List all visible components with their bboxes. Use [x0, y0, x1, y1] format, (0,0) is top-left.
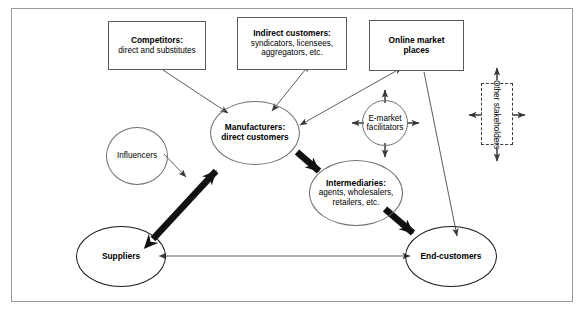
node-suppliers[interactable]: Suppliers [76, 226, 166, 287]
intermediaries-line1: agents, wholesalers, [319, 188, 394, 197]
intermediaries-line2: retailers, etc. [333, 198, 380, 207]
intermediaries-title: Intermediaries: [326, 179, 386, 189]
e-market-facilitators-line1: E-market [368, 114, 401, 123]
e-market-facilitators-line2: facilitators [367, 123, 404, 132]
competitors-title: Competitors: [131, 36, 183, 46]
manufacturers-line2: direct customers [221, 133, 289, 143]
suppliers-label: Suppliers [102, 252, 140, 262]
node-e-market-facilitators[interactable]: E-market facilitators [362, 100, 408, 146]
node-competitors[interactable]: Competitors: direct and substitutes [108, 21, 206, 70]
other-stakeholders-label: Other stakeholders [493, 79, 502, 148]
indirect-customers-line2: aggregators, etc. [261, 48, 322, 57]
online-market-places-line2: places [403, 46, 429, 56]
node-intermediaries[interactable]: Intermediaries: agents, wholesalers, ret… [309, 160, 403, 226]
node-online-market-places[interactable]: Online market places [369, 20, 464, 71]
influencers-label: Influencers [117, 151, 157, 160]
diagram-canvas: Competitors: direct and substitutes Indi… [0, 0, 586, 313]
node-influencers[interactable]: Influencers [106, 127, 168, 185]
node-other-stakeholders[interactable]: Other stakeholders [481, 83, 513, 145]
node-indirect-customers[interactable]: Indirect customers: syndicators, license… [237, 17, 347, 70]
node-end-customers[interactable]: End-customers [405, 226, 497, 287]
indirect-customers-title: Indirect customers: [253, 29, 331, 39]
end-customers-label: End-customers [421, 252, 482, 262]
node-manufacturers[interactable]: Manufacturers: direct customers [210, 101, 300, 165]
indirect-customers-line1: syndicators, licensees, [251, 39, 333, 48]
competitors-subtitle: direct and substitutes [118, 46, 195, 55]
